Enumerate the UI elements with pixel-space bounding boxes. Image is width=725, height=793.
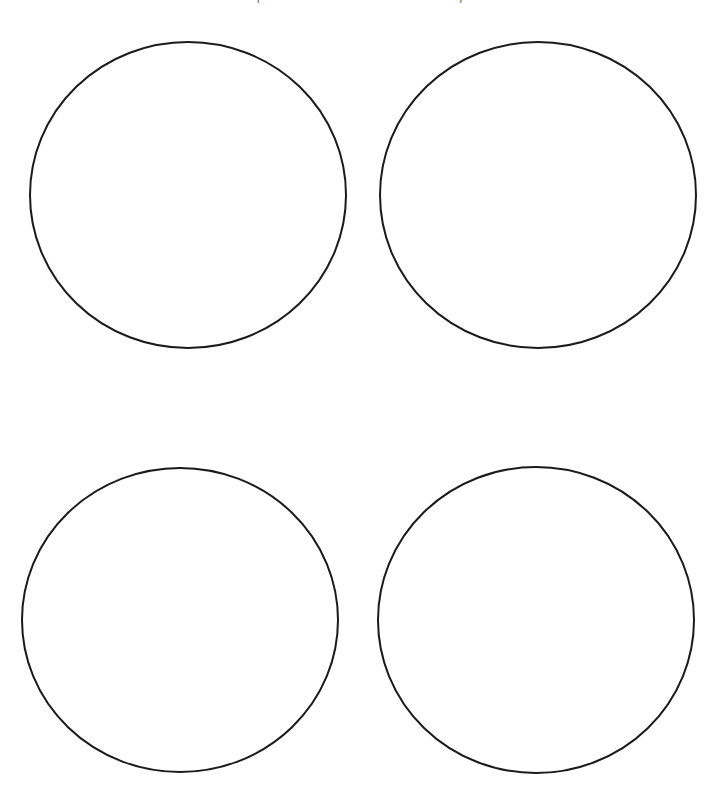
circle-bottom-left [22, 468, 338, 772]
circle-top-left [30, 42, 346, 348]
circle-diagram [0, 0, 725, 793]
circle-top-right [380, 42, 696, 348]
circle-bottom-right [378, 467, 694, 773]
